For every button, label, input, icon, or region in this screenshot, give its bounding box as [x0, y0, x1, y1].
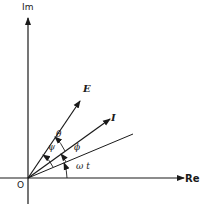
- vector-i-label: I: [110, 112, 116, 123]
- angle-label-phi: ϕ: [74, 142, 80, 152]
- angle-label-psi: ψ: [48, 142, 56, 152]
- imaginary-axis-label: Im: [22, 2, 33, 12]
- angle-label-theta: θ: [56, 129, 62, 139]
- origin-label: O: [17, 180, 24, 190]
- real-axis-label: Re: [185, 173, 200, 184]
- angle-label-omega-t: ω t: [76, 161, 90, 171]
- vector-e-label: E: [82, 83, 91, 94]
- angle-arc-theta: [55, 137, 65, 151]
- phasor-diagram: Im Re O I E ω t ϕ ψ θ: [0, 0, 201, 204]
- angle-arc-omega-t: [64, 163, 67, 178]
- angle-arc-phi: [61, 154, 66, 162]
- vector-e: [28, 101, 80, 178]
